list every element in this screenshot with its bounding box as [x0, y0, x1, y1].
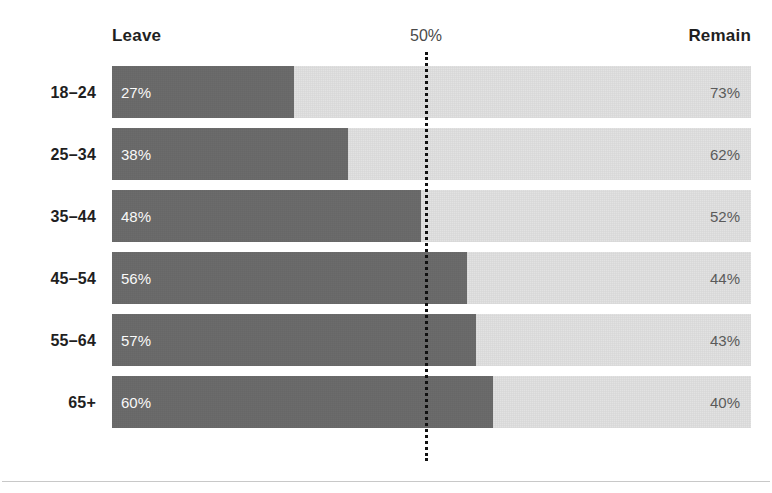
midpoint-reference-line [425, 52, 428, 461]
table-row: 38% 62% [112, 128, 751, 180]
texture-overlay [294, 66, 751, 118]
category-label: 35–44 [0, 208, 96, 226]
table-row: 48% 52% [112, 190, 751, 242]
bar-segment-leave: 38% [112, 128, 348, 180]
bar-segment-remain: 62% [348, 128, 751, 180]
table-row: 60% 40% [112, 376, 751, 428]
bar-segment-leave: 48% [112, 190, 421, 242]
bar-value-leave: 57% [121, 333, 151, 348]
texture-overlay [112, 376, 493, 428]
bar-segment-remain: 52% [421, 190, 751, 242]
chart-legend-header: Leave 50% Remain [0, 26, 772, 52]
midpoint-axis-label: 50% [398, 27, 454, 45]
bar-value-leave: 60% [121, 395, 151, 410]
category-label: 45–54 [0, 270, 96, 288]
bar-segment-leave: 60% [112, 376, 493, 428]
bar-value-remain: 40% [710, 395, 740, 410]
bar-value-remain: 73% [710, 85, 740, 100]
bottom-divider [2, 481, 770, 482]
texture-overlay [112, 314, 476, 366]
texture-overlay [421, 190, 751, 242]
table-row: 57% 43% [112, 314, 751, 366]
bar-value-leave: 48% [121, 209, 151, 224]
texture-overlay [348, 128, 751, 180]
stacked-bar-chart: Leave 50% Remain 27% 73% 38% 62% [0, 0, 772, 493]
category-label: 55–64 [0, 332, 96, 350]
bar-segment-remain: 40% [493, 376, 751, 428]
table-row: 27% 73% [112, 66, 751, 118]
bar-value-remain: 52% [710, 209, 740, 224]
table-row: 56% 44% [112, 252, 751, 304]
bar-segment-leave: 56% [112, 252, 467, 304]
texture-overlay [112, 190, 421, 242]
category-label: 25–34 [0, 146, 96, 164]
bar-segment-leave: 27% [112, 66, 294, 118]
bar-value-remain: 44% [710, 271, 740, 286]
bar-segment-remain: 73% [294, 66, 751, 118]
bar-value-leave: 38% [121, 147, 151, 162]
bar-segment-remain: 44% [467, 252, 751, 304]
legend-label-remain: Remain [591, 26, 751, 46]
bar-segment-remain: 43% [476, 314, 751, 366]
bar-value-remain: 62% [710, 147, 740, 162]
category-label: 18–24 [0, 84, 96, 102]
texture-overlay [467, 252, 751, 304]
category-label: 65+ [0, 394, 96, 412]
plot-area: 27% 73% 38% 62% 48% [112, 66, 751, 434]
bar-value-leave: 56% [121, 271, 151, 286]
bar-value-remain: 43% [710, 333, 740, 348]
legend-label-leave: Leave [112, 26, 161, 46]
bar-segment-leave: 57% [112, 314, 476, 366]
bar-value-leave: 27% [121, 85, 151, 100]
texture-overlay [112, 252, 467, 304]
